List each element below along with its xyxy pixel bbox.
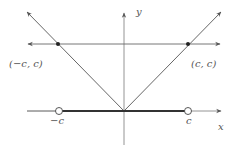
- tick-label-c: c: [186, 115, 192, 126]
- point-c-c: [186, 42, 190, 46]
- x-axis-label: x: [218, 121, 224, 132]
- y-axis-label: y: [135, 6, 142, 17]
- diagram-canvas: y x (−c, c) (c, c) −c c: [0, 0, 236, 150]
- tick-label-neg-c: −c: [50, 115, 64, 126]
- open-circle-neg-c: [56, 108, 63, 115]
- point-label-neg-c-c: (−c, c): [9, 58, 43, 69]
- point-label-c-c: (c, c): [191, 58, 216, 69]
- point-neg-c-c: [56, 42, 60, 46]
- open-circle-c: [185, 108, 192, 115]
